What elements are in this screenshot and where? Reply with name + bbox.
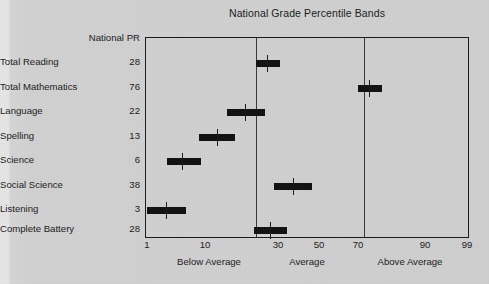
band-median-tick <box>267 55 268 72</box>
x-axis-tick-label: 10 <box>200 239 211 250</box>
row-label: Spelling <box>0 130 108 141</box>
x-axis-tick-label: 50 <box>314 239 325 250</box>
x-axis-tick-label: 30 <box>273 239 284 250</box>
chart-title: National Grade Percentile Bands <box>145 7 469 19</box>
row-label: Language <box>0 105 108 116</box>
zone-label: Average <box>289 256 325 267</box>
x-axis-tick-label: 99 <box>462 239 473 250</box>
row-percentile-value: 13 <box>108 130 140 141</box>
row-label: Total Mathematics <box>0 81 108 92</box>
row-label: Social Science <box>0 179 108 190</box>
band-median-tick <box>166 202 167 219</box>
band-median-tick <box>245 104 246 121</box>
band-median-tick <box>217 129 218 146</box>
row-percentile-value: 76 <box>108 81 140 92</box>
zone-label: Below Average <box>177 256 241 267</box>
x-axis-tick-label: 1 <box>144 239 149 250</box>
band-median-tick <box>293 178 294 195</box>
band-median-tick <box>270 222 271 239</box>
row-percentile-value: 28 <box>108 223 140 234</box>
row-percentile-value: 3 <box>108 203 140 214</box>
row-label: Complete Battery <box>0 223 108 234</box>
row-label: Science <box>0 154 108 165</box>
row-percentile-value: 28 <box>108 56 140 67</box>
x-axis-tick-label: 90 <box>420 239 431 250</box>
percentile-band <box>167 158 201 165</box>
plot-frame <box>145 37 469 238</box>
row-percentile-value: 22 <box>108 105 140 116</box>
row-percentile-value: 38 <box>108 179 140 190</box>
row-label: Listening <box>0 203 108 214</box>
row-percentile-value: 6 <box>108 154 140 165</box>
zone-divider-line <box>364 38 365 237</box>
band-median-tick <box>369 80 370 97</box>
row-label: Total Reading <box>0 56 108 67</box>
x-axis-tick-label: 70 <box>353 239 364 250</box>
zone-label: Above Average <box>378 256 443 267</box>
band-median-tick <box>182 153 183 170</box>
zone-divider-line <box>256 38 257 237</box>
national-pr-column-header: National PR <box>30 32 140 43</box>
